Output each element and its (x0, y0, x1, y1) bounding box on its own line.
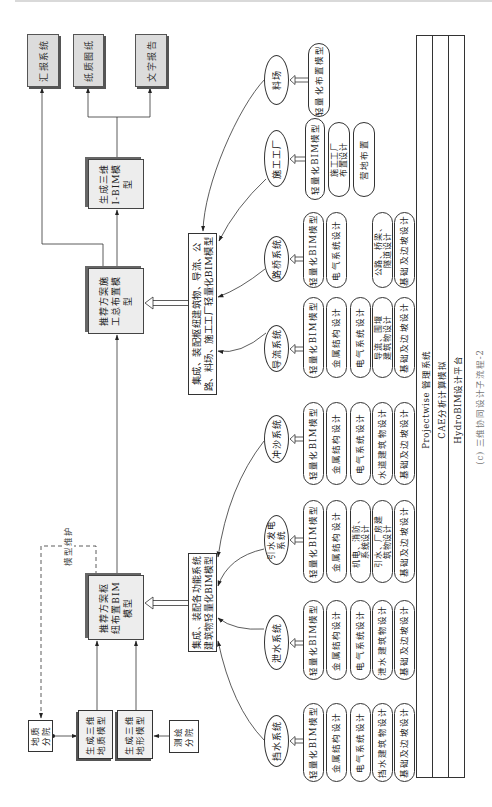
system-name: 导流系统 (272, 329, 282, 369)
system-oval-xieshui: 泄水系统 (264, 615, 289, 670)
pill-item: 轻量化BIM模型 (303, 600, 324, 680)
hollow-arrow-construction-integration (145, 297, 188, 309)
system-name: 引水发电 系统 (267, 520, 286, 560)
source-geology-institute: 地质 分院 (28, 720, 53, 752)
pill-item: 轻量化BIM模型 (303, 212, 324, 288)
hollow-arrow-factory (290, 155, 305, 164)
source-geology-model: 生成三维 地质模型 (78, 710, 113, 759)
source-label: 生成三维 地质模型 (85, 715, 107, 755)
platform-layer-label: HydroBIM设计平台 (451, 355, 463, 443)
output-label: 文字报告 (145, 40, 158, 82)
pill-item: 电气系统设计 (326, 212, 347, 288)
hollow-arrow-chongsha (290, 435, 303, 444)
pill-item: 引水、厂房建 筑物设计 (372, 500, 393, 583)
pill-item: 电气系统设计 (350, 600, 371, 680)
process-construction-layout: 推荐方案施 工总布置模 型 (88, 268, 144, 334)
source-label: 生成三维 地形模型 (124, 715, 146, 755)
hollow-arrow-material-yard (290, 76, 308, 85)
platform-layer-label: CAE分析计算模拟 (435, 360, 447, 438)
process-ibim-model: 生成三维 I-BIM模 型 (88, 159, 144, 209)
pill-item: 基础及边坡设计 (394, 703, 415, 782)
system-name: 料场 (272, 70, 282, 90)
process-label: 推荐方案枢 纽布置BIM 模型 (98, 581, 134, 633)
integration-hub-box: 集成、装配各功能系统 建筑物轻量化BIM模型 (188, 553, 217, 652)
output-label: 汇报系统 (37, 40, 50, 82)
system-oval-daoliu: 导流系统 (264, 325, 289, 372)
process-label: 推荐方案施 工总布置模 型 (98, 276, 134, 326)
pill-item: 导流、围堰 建筑物设计 (372, 297, 393, 378)
pill-item: 电气系统设计 (350, 703, 371, 782)
platform-layer-label: Projectwise 管理系统 (419, 350, 431, 448)
pill-item: 轻量化BIM模型 (303, 500, 324, 583)
platform-layer-cae: CAE分析计算模拟 (432, 35, 449, 778)
platform-layer-hydrobim: HydroBIM设计平台 (448, 35, 465, 778)
process-label: 生成三维 I-BIM模 型 (98, 164, 134, 205)
pill-item: 基础及边坡设计 (394, 600, 415, 680)
integration-label: 集成、装配各功能系统 建筑物轻量化BIM模型 (191, 555, 215, 649)
pill-item: 轻量化BIM模型 (303, 297, 324, 378)
pill-item: 金属结构设计 (326, 500, 347, 583)
pill-item: 施工工厂 布置设计 (328, 122, 350, 197)
system-oval-yinshui-fadian: 引水发电 系统 (264, 515, 289, 565)
system-oval-dangshui: 挡水系统 (264, 715, 289, 767)
system-name: 挡水系统 (272, 721, 282, 761)
system-name: 施工工厂 (272, 139, 282, 179)
pill-item: 水道建筑物设计 (372, 402, 393, 485)
pill-item: 基础及边坡设计 (394, 212, 415, 288)
ibim-to-outputs-stem (88, 117, 150, 159)
pill-item: 金属结构设计 (326, 703, 347, 782)
output-report-system: 汇报系统 (27, 34, 59, 87)
source-terrain-model: 生成三维 地形模型 (117, 710, 153, 759)
curve-factory-to-construction-integration (219, 179, 266, 241)
curve-luqiao-to-construction-integration (218, 269, 265, 297)
pill-item: 轻量化布置模型 (308, 43, 330, 117)
pill-item: 电气系统设计 (350, 297, 371, 378)
system-name: 路桥系统 (272, 239, 282, 279)
pill-item: 泄水建筑物设计 (372, 600, 393, 680)
pill-item: 基础及边坡设计 (394, 402, 415, 485)
system-oval-luqiao: 路桥系统 (264, 236, 289, 282)
source-survey-institute: 测绘 分院 (169, 720, 199, 753)
curve-daoliu-to-construction-integration (218, 333, 266, 352)
pill-item: 金属结构设计 (326, 297, 347, 378)
process-hub-layout: 推荐方案枢 纽布置BIM 模型 (88, 575, 144, 640)
source-label: 测绘 分院 (173, 727, 195, 747)
pill-item: 金属结构设计 (326, 600, 347, 680)
figure-caption: (c) 三维协同设计子流程-2 (473, 332, 485, 482)
system-oval-chongsha: 冲沙系统 (264, 415, 289, 463)
platform-layer-projectwise: Projectwise 管理系统 (416, 35, 433, 778)
hollow-arrow-hub-integration (145, 597, 188, 609)
curve-chongsha-to-hub-integration (218, 441, 264, 557)
system-oval-construction-factory: 施工工厂 (264, 130, 289, 187)
source-label: 地质 分院 (30, 726, 52, 746)
system-name: 冲沙系统 (272, 419, 282, 459)
output-label: 纸质图纸 (82, 40, 95, 82)
pill-item: 金属结构设计 (326, 402, 347, 485)
pill-item: 轻量化BIM模型 (303, 703, 324, 782)
pill-item: 基础及边坡设计 (394, 297, 415, 378)
hollow-arrow-yinshui (290, 536, 303, 545)
output-text-report: 文字报告 (135, 34, 167, 87)
hollow-arrow-dangshui (290, 737, 303, 746)
system-oval-material-yard: 料场 (264, 55, 289, 105)
hollow-arrow-luqiao (290, 255, 303, 264)
output-paper-drawings: 纸质图纸 (73, 34, 104, 87)
pill-item: 电气系统设计 (350, 402, 371, 485)
pill-item: 轻量化BIM模型 (303, 402, 324, 485)
model-maintenance-label: 模型维护 (62, 526, 74, 566)
pill-item: 机电、消防、 系统设计 (350, 500, 371, 583)
pill-item: 基础及边坡设计 (394, 500, 415, 583)
pill-item: 营地布置 (353, 122, 375, 197)
curve-dangshui-to-hub-integration (218, 641, 264, 740)
system-name: 泄水系统 (272, 623, 282, 663)
curve-material-yard-to-construction-integration (203, 79, 265, 231)
pill-item: 公路、桥梁、 隧道设计 (372, 212, 393, 288)
pill-item: 轻量化BIM模型 (305, 118, 325, 200)
hollow-arrow-daoliu (290, 345, 303, 354)
curve-xieshui-to-hub-integration (218, 618, 264, 629)
pill-item: 挡水建筑物设计 (372, 703, 393, 782)
integration-label: 集成、装配枢纽建筑物、导流、公 路、料场、施工工厂轻量化BIM模型 (191, 237, 215, 392)
integration-construction-box: 集成、装配枢纽建筑物、导流、公 路、料场、施工工厂轻量化BIM模型 (188, 233, 217, 395)
workflow-diagram: 汇报系统 纸质图纸 文字报告 生成三维 I-BIM模 型 推荐方案施 工总布置模… (0, 0, 492, 807)
curve-yinshui-to-hub-integration (218, 549, 264, 586)
